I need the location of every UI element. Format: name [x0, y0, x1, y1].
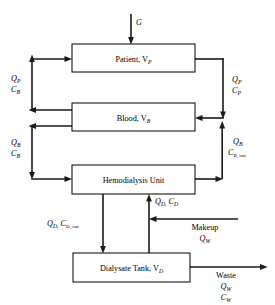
svg-text:Waste: Waste	[216, 271, 236, 280]
dialysate-inflow-arrow	[146, 194, 152, 253]
svg-text:Hemodialysis Unit: Hemodialysis Unit	[103, 176, 165, 185]
patient-return-label: QP CB	[11, 74, 21, 95]
svg-text:CB: CB	[11, 85, 20, 95]
svg-text:Blood, VB: Blood, VB	[117, 114, 151, 124]
blood-to-patient-flow	[29, 55, 73, 113]
patient-box[interactable]: Patient, VP	[72, 44, 195, 72]
patient-to-blood-flow	[195, 58, 226, 121]
hemodialysis-box-label: Hemodialysis Unit	[103, 176, 165, 185]
hemodialysis-to-blood-flow	[195, 121, 225, 182]
svg-text:QW: QW	[221, 282, 233, 292]
dialysate-tank-box-label: Dialysate Tank, V	[100, 264, 159, 273]
waste-label: Waste QW CW	[216, 271, 236, 303]
blood-box-label-sub: B	[147, 118, 151, 124]
blood-outflow-label: QB CB, out	[228, 137, 246, 159]
svg-text:CW: CW	[221, 293, 232, 303]
dialysate-inflow-label: QD, CD	[155, 197, 179, 207]
svg-text:CB, out: CB, out	[228, 148, 246, 159]
svg-text:Dialysate Tank, VD: Dialysate Tank, VD	[100, 264, 164, 274]
dialysate-outflow-label: QD, CD, out	[47, 219, 79, 230]
blood-box[interactable]: Blood, VB	[72, 103, 195, 131]
blood-box-label: Blood, V	[117, 114, 147, 123]
generation-label: G	[136, 18, 142, 27]
svg-text:CP: CP	[232, 86, 241, 96]
svg-text:Makeup: Makeup	[192, 223, 219, 232]
hemodialysis-box[interactable]: Hemodialysis Unit	[72, 165, 195, 194]
dialysate-tank-box[interactable]: Dialysate Tank, VD	[73, 253, 190, 282]
svg-text:QW: QW	[200, 234, 212, 244]
dialysate-tank-box-label-sub: D	[158, 268, 164, 274]
svg-text:QD, CD: QD, CD	[155, 197, 179, 207]
patient-box-label-sub: P	[147, 59, 152, 65]
svg-text:QD, CD, out: QD, CD, out	[47, 219, 79, 230]
makeup-inflow-arrow	[149, 216, 238, 222]
svg-text:QP: QP	[232, 75, 242, 85]
generation-inflow-arrow	[128, 14, 134, 45]
makeup-label: Makeup QW	[192, 223, 219, 244]
dialysate-outflow-arrow	[100, 194, 106, 254]
svg-text:QB: QB	[11, 138, 21, 148]
svg-text:Patient, VP: Patient, VP	[115, 55, 152, 65]
svg-text:QP: QP	[11, 74, 21, 84]
patient-outflow-label: QP CP	[232, 75, 242, 96]
hemodialysis-flow-diagram: Patient, VP Blood, VB Hemodialysis Unit …	[0, 0, 275, 305]
blood-to-hemodialysis-flow	[29, 123, 73, 182]
svg-text:QB: QB	[233, 137, 243, 147]
svg-text:CB: CB	[11, 149, 20, 159]
diagram-canvas: Patient, VP Blood, VB Hemodialysis Unit …	[0, 0, 275, 305]
blood-return-label: QB CB	[11, 138, 21, 159]
patient-box-label: Patient, V	[115, 55, 148, 64]
waste-outflow-arrow	[190, 264, 268, 270]
